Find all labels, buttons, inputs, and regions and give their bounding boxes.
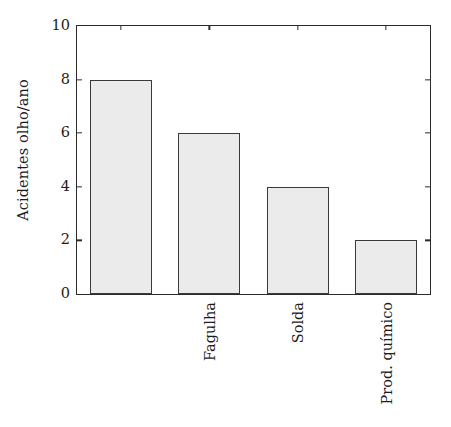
y-tick-label-8: 8 (46, 71, 70, 87)
plot-area (76, 25, 431, 295)
y-axis-tick-labels: 0 2 4 6 8 10 (44, 25, 70, 295)
y-tick-label-2: 2 (46, 231, 70, 247)
y-axis-title-text: Acidentes olho/ano (15, 79, 31, 221)
y-axis-title: Acidentes olho/ano (0, 0, 46, 300)
bars-layer (77, 26, 430, 294)
x-axis-tick-labels: Fagulha Solda Prod. químico Outros (76, 300, 431, 427)
x-tick-label-solda: Solda (291, 302, 306, 343)
y-tick-label-6: 6 (46, 124, 70, 140)
x-tick-label-prod-quimico: Prod. químico (380, 302, 395, 404)
y-tick-label-10: 10 (46, 17, 70, 33)
y-tick-label-4: 4 (46, 178, 70, 194)
y-tick-label-0: 0 (46, 285, 70, 301)
bar-fagulha (90, 80, 152, 294)
bar-prod-quimico (267, 187, 329, 294)
x-tick-label-fagulha: Fagulha (203, 302, 218, 361)
bar-solda (178, 133, 240, 294)
bar-outros (355, 240, 417, 294)
chart-figure: Acidentes olho/ano 0 2 4 6 8 10 (0, 0, 451, 427)
